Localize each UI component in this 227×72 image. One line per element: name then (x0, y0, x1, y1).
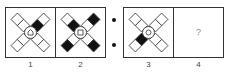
panel-label-1: 1 (21, 60, 41, 69)
panel-3 (129, 13, 168, 52)
center-circle (143, 27, 155, 39)
separator-dot-1 (112, 18, 116, 22)
panel-label-3: 3 (139, 60, 159, 69)
separator-dot-2 (112, 43, 116, 47)
panel-label-2: 2 (71, 60, 91, 69)
question-mark: ? (189, 27, 209, 37)
panel-1 (11, 13, 50, 52)
center-circle (75, 27, 87, 39)
panel-2 (61, 13, 100, 52)
center-circle (25, 27, 37, 39)
panel-label-4: 4 (189, 60, 209, 69)
